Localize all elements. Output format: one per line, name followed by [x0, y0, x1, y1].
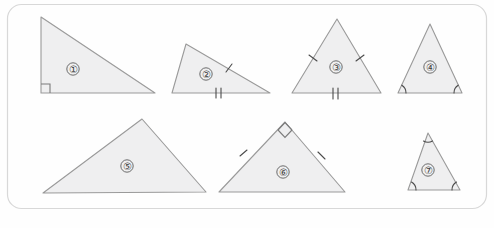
triangle-7: ⑦: [408, 133, 460, 190]
triangles-diagram: ① ② ③ ④: [0, 0, 494, 228]
triangle-5: ⑤: [43, 119, 206, 193]
triangle-4-shape: [398, 24, 462, 93]
triangle-2: ②: [172, 44, 270, 98]
triangle-7-label: ⑦: [424, 166, 433, 176]
triangle-5-shape: [43, 119, 206, 193]
triangle-6-right-tick-icon: [318, 152, 325, 159]
triangle-6: ⑥: [219, 122, 345, 192]
triangle-3-shape: [292, 19, 381, 93]
triangle-6-shape: [219, 122, 345, 192]
triangle-5-label: ⑤: [123, 162, 132, 172]
triangle-3: ③: [292, 19, 381, 99]
triangle-2-shape: [172, 44, 270, 93]
triangle-6-label: ⑥: [279, 168, 288, 178]
triangle-7-shape: [408, 133, 460, 190]
triangle-4-label: ④: [426, 63, 435, 73]
triangle-6-left-tick-icon: [240, 150, 247, 156]
triangle-1: ①: [41, 17, 155, 93]
triangle-1-shape: [41, 17, 155, 93]
triangle-4: ④: [398, 24, 462, 93]
figure-stage: ① ② ③ ④: [0, 0, 494, 228]
triangle-2-label: ②: [202, 70, 211, 80]
triangle-1-label: ①: [69, 65, 78, 75]
triangle-3-label: ③: [332, 63, 341, 73]
